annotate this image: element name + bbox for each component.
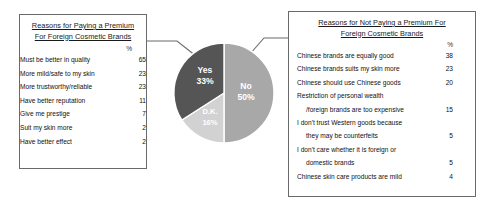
pie-label-dk: D.K. 16%	[190, 107, 230, 128]
pie-chart: Yes 33% No 50% D.K. 16%	[172, 41, 276, 145]
row-value: 20	[437, 76, 475, 89]
left-panel-title: Reasons for Paying a Premium For Foreign…	[20, 15, 146, 42]
row-label: Chinese brands suits my skin more	[289, 62, 437, 75]
table-row: I don't care whether it is foreign or do…	[289, 143, 475, 170]
row-label-line1: I don't trust Western goods because	[297, 119, 402, 126]
row-label: Must be better in quality	[20, 53, 135, 67]
row-label-line1: I don't care whether it is foreign or	[297, 146, 396, 153]
left-reasons-panel: Reasons for Paying a Premium For Foreign…	[19, 14, 147, 169]
left-panel-percent-header: %	[20, 45, 146, 52]
row-value: 2	[135, 135, 146, 149]
right-reasons-panel: Reasons for Not Paying a Premium For For…	[288, 11, 476, 197]
table-row: Have better effect 2	[20, 135, 146, 149]
row-label-line1: Restriction of personal wealth	[297, 92, 384, 99]
table-row: Chinese brands are equally good 38	[289, 49, 475, 62]
right-panel-title-line2: Foreign Cosmetic Brands	[341, 29, 423, 40]
left-panel-table: Must be better in quality 65 More mild/s…	[20, 53, 146, 148]
pie-label-no: No 50%	[226, 81, 266, 102]
table-row: Chinese skin care products are mild 4	[289, 170, 475, 183]
pie-label-no-pct: 50%	[237, 92, 254, 102]
left-panel-title-line1: Reasons for Paying a Premium	[32, 21, 134, 32]
table-row: Chinese should use Chinese goods 20	[289, 76, 475, 89]
table-row: Restriction of personal wealth /foreign …	[289, 89, 475, 116]
row-label-line2: /foreign brands are too expensive	[297, 103, 437, 116]
row-label-line2: they may be counterfeits	[297, 129, 437, 142]
right-panel-table: Chinese brands are equally good 38 Chine…	[289, 49, 475, 183]
left-panel-title-line2: For Foreign Cosmetic Brands	[35, 32, 132, 43]
right-panel-title-line1: Reasons for Not Paying a Premium For	[318, 18, 445, 29]
table-row: Must be better in quality 65	[20, 53, 146, 67]
row-label: Have better reputation	[20, 94, 135, 108]
row-label: Suit my skin more	[20, 121, 135, 135]
table-row: Give me prestige 7	[20, 107, 146, 121]
pie-label-yes-pct: 33%	[196, 76, 213, 86]
row-label: Give me prestige	[20, 107, 135, 121]
row-value: 5	[437, 116, 475, 143]
row-label: More trustworthy/reliable	[20, 80, 135, 94]
row-label-line2: domestic brands	[297, 156, 437, 169]
row-value: 23	[135, 67, 146, 81]
row-label: Chinese skin care products are mild	[289, 170, 437, 183]
pie-label-yes-name: Yes	[198, 65, 213, 75]
row-label: More mild/safe to my skin	[20, 67, 135, 81]
pie-label-yes: Yes 33%	[184, 65, 226, 86]
pie-label-dk-pct: 16%	[202, 118, 217, 127]
right-panel-title: Reasons for Not Paying a Premium For For…	[289, 12, 475, 39]
row-value: 7	[135, 107, 146, 121]
right-panel-percent-header: %	[289, 41, 475, 48]
row-value: 65	[135, 53, 146, 67]
table-row: Chinese brands suits my skin more 23	[289, 62, 475, 75]
row-value: 15	[437, 89, 475, 116]
table-row: More mild/safe to my skin 23	[20, 67, 146, 81]
pie-label-no-name: No	[240, 81, 251, 91]
row-label: Restriction of personal wealth /foreign …	[289, 89, 437, 116]
row-value: 23	[437, 62, 475, 75]
row-value: 38	[437, 49, 475, 62]
table-row: Suit my skin more 2	[20, 121, 146, 135]
infographic-root: Yes 33% No 50% D.K. 16% Reasons for Payi…	[0, 0, 483, 215]
row-label: Chinese should use Chinese goods	[289, 76, 437, 89]
table-row: I don't trust Western goods because they…	[289, 116, 475, 143]
row-value: 11	[135, 94, 146, 108]
pie-label-dk-name: D.K.	[202, 107, 217, 116]
table-row: Have better reputation 11	[20, 94, 146, 108]
row-value: 5	[437, 143, 475, 170]
row-value: 23	[135, 80, 146, 94]
table-row: More trustworthy/reliable 23	[20, 80, 146, 94]
row-value: 2	[135, 121, 146, 135]
row-label: Chinese brands are equally good	[289, 49, 437, 62]
row-label: I don't care whether it is foreign or do…	[289, 143, 437, 170]
row-label: I don't trust Western goods because they…	[289, 116, 437, 143]
row-value: 4	[437, 170, 475, 183]
row-label: Have better effect	[20, 135, 135, 149]
